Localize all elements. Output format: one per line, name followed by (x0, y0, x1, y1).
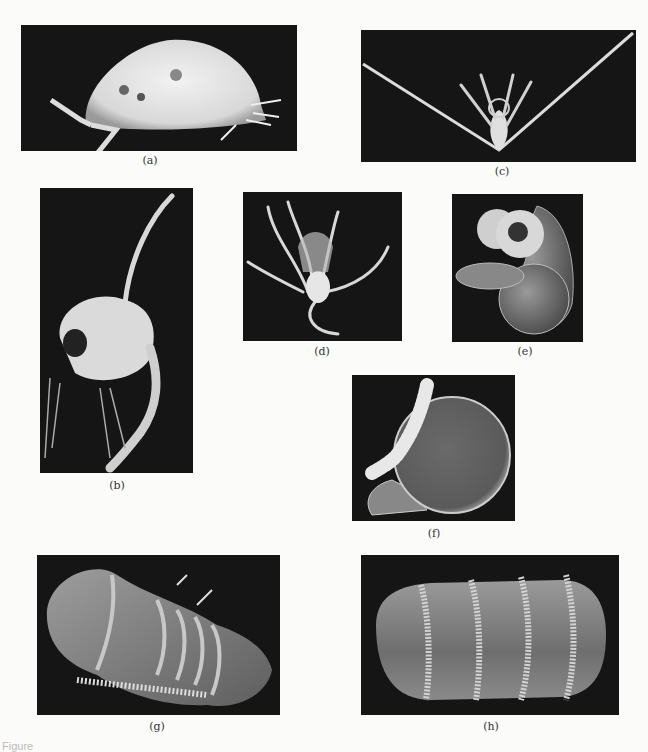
panel-label-g: (g) (149, 720, 165, 733)
barrel-larva-h-image (361, 555, 619, 715)
figure-panel-b (40, 188, 193, 473)
long-armed-larva-image (361, 30, 636, 162)
panel-label-f: (f) (428, 527, 441, 540)
veliger-larva-e-image (452, 194, 583, 342)
figure-panel-g (37, 555, 280, 715)
panel-label-e: (e) (517, 345, 532, 358)
figure-caption-partial: Figure (2, 740, 33, 752)
veliger-larva-f-image (352, 375, 515, 521)
figure-panel-e (452, 194, 583, 342)
spined-crustacean-image (40, 188, 193, 473)
figure-panel-f (352, 375, 515, 521)
figure-panel-h (361, 555, 619, 715)
panel-label-c: (c) (495, 165, 510, 178)
panel-label-a: (a) (142, 154, 157, 167)
panel-label-d: (d) (314, 345, 330, 358)
figure-panel-c (361, 30, 636, 162)
tentacled-larva-image (243, 192, 402, 341)
figure-panel-a (21, 25, 297, 151)
panel-label-b: (b) (109, 479, 125, 492)
segmented-larva-g-image (37, 555, 280, 715)
figure-panel-d (243, 192, 402, 341)
ostracod-image (21, 25, 297, 151)
panel-label-h: (h) (483, 720, 499, 733)
